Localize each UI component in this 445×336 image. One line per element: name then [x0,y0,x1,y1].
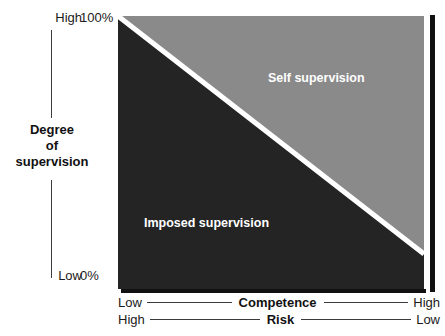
x-axis-competence-rule-right [324,302,409,303]
x-axis-risk-rule-right [301,319,411,320]
x-axis-row-risk: High Risk Low [118,311,440,328]
y-axis-title-line-2: of [0,138,104,154]
x-axis-competence-rule-left [147,302,232,303]
plot-shadow-right [430,15,435,292]
y-axis-bottom-value: 0% [80,268,114,283]
y-axis-line-lower [51,180,52,278]
x-axis-risk-left-label: High [118,312,150,327]
region-label-imposed-supervision: Imposed supervision [144,216,269,230]
y-axis-line-upper [51,30,52,118]
figure-canvas: High 100% Degree of supervision Low 0% S… [0,0,445,336]
x-axis-risk-right-label: Low [411,312,440,327]
x-axis-row-competence: Low Competence High [118,294,440,311]
x-axis-group: Low Competence High High Risk Low [118,294,440,328]
y-axis-bottom-label: Low [0,268,82,283]
x-axis-risk-rule-left [150,319,260,320]
x-axis-competence-title: Competence [232,295,324,310]
plot-area: Self supervision Imposed supervision [118,16,424,289]
x-axis-competence-left-label: Low [118,295,147,310]
x-axis-risk-title: Risk [260,312,301,327]
y-axis-title-line-1: Degree [0,122,104,138]
region-imposed-supervision [118,16,424,289]
y-axis-title-line-3: supervision [0,154,104,170]
plot-shadow-bottom [121,289,426,293]
y-axis-top-value: 100% [80,10,114,25]
region-label-self-supervision: Self supervision [268,71,365,85]
y-axis-title: Degree of supervision [0,122,104,170]
x-axis-competence-right-label: High [408,295,440,310]
y-axis-top-label: High [0,10,82,25]
